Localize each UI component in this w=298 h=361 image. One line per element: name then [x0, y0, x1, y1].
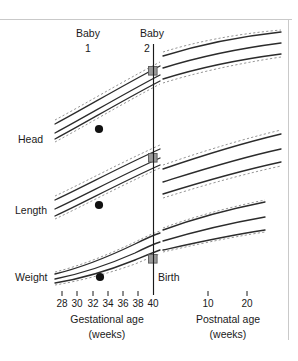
postnatal-axis-title-line2: (weeks) — [210, 328, 247, 340]
head-dashed-lower-post — [163, 57, 281, 83]
postnatal-axis-title-line1: Postnatal age — [196, 313, 260, 325]
baby1-length-marker — [95, 201, 103, 209]
head-centile-lower-post — [163, 54, 281, 79]
row-label-head: Head — [18, 133, 43, 145]
head-centile-lower-pre — [55, 81, 160, 139]
baby1-head-marker — [95, 125, 103, 133]
baby1-label-line1: Baby — [76, 27, 101, 39]
growth-chart-figure: Head Length Weight Birt — [0, 0, 298, 361]
baby1-label-line2: 1 — [85, 42, 91, 54]
head-centile-upper-pre — [55, 66, 160, 124]
tick-label-34: 34 — [102, 298, 114, 309]
length-centile-upper-pre — [55, 149, 160, 200]
weight-dashed-lower-post — [163, 232, 265, 252]
baby2-label-line1: Baby — [140, 27, 165, 39]
weight-centile-lower-post — [163, 230, 265, 250]
tick-label-30: 30 — [71, 298, 83, 309]
row-label-weight: Weight — [15, 271, 48, 283]
postnatal-axis: 10 20 Postnatal age (weeks) — [196, 291, 260, 340]
length-centile-lower-post — [163, 162, 281, 194]
gestational-axis: 28 30 32 34 36 38 40 Gestational age (we… — [56, 291, 159, 340]
weight-centile-upper-post — [163, 202, 265, 230]
length-centile-median-pre — [55, 158, 160, 209]
baby2-annotation: Baby 2 — [140, 27, 165, 54]
length-dashed-upper-post — [163, 130, 281, 165]
baby2-head-marker — [149, 67, 158, 76]
tick-label-p20: 20 — [241, 298, 253, 309]
tick-label-32: 32 — [87, 298, 99, 309]
baby1-annotation: Baby 1 — [76, 27, 101, 54]
head-centile-median-pre — [55, 75, 160, 133]
weight-centile-lower-pre — [55, 250, 160, 283]
length-dashed-lower-pre — [55, 168, 160, 219]
row-label-length: Length — [15, 204, 47, 216]
tick-label-38: 38 — [132, 298, 144, 309]
baby1-weight-marker — [96, 273, 104, 281]
panel-length: Length — [15, 130, 281, 219]
panel-weight: Weight — [15, 200, 265, 285]
weight-dashed-upper-pre — [55, 231, 160, 272]
head-dashed-lower-pre — [55, 84, 160, 142]
weight-centile-upper-pre — [55, 233, 160, 274]
length-dashed-upper-pre — [55, 145, 160, 196]
length-dashed-lower-post — [163, 166, 281, 198]
length-centile-lower-pre — [55, 165, 160, 216]
gestational-axis-title-line1: Gestational age — [70, 313, 144, 325]
baby2-length-marker — [149, 154, 158, 163]
weight-centile-median-post — [163, 217, 265, 241]
baby2-label-line2: 2 — [144, 42, 150, 54]
birth-label: Birth — [158, 271, 180, 283]
head-dashed-upper-pre — [55, 62, 160, 120]
tick-label-40: 40 — [147, 298, 159, 309]
gestational-axis-title-line2: (weeks) — [89, 328, 126, 340]
baby2-weight-marker — [149, 255, 158, 264]
tick-label-36: 36 — [117, 298, 129, 309]
tick-label-28: 28 — [56, 298, 68, 309]
tick-label-p10: 10 — [202, 298, 214, 309]
